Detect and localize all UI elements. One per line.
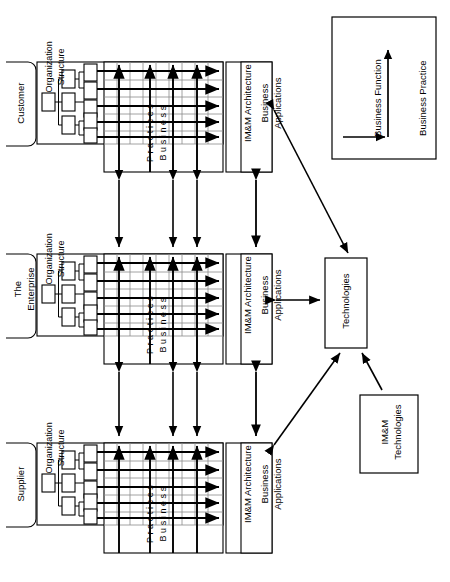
matrix-label-enterprise-line1: Business <box>159 283 169 365</box>
technologies-label: Technologies <box>341 258 351 344</box>
org-label-customer-line2: Structure <box>57 26 67 108</box>
immtech-label-line2: Technologies <box>393 395 403 469</box>
org-node-mid <box>62 116 75 134</box>
org-node-mid <box>62 308 75 326</box>
org-label-enterprise-line1: Organization <box>45 218 55 300</box>
matrix-label-enterprise-line2: Practices <box>146 283 156 365</box>
matrix-label-customer-line2: Practices <box>146 91 156 173</box>
immarch-label-enterprise: IM&M Architecture <box>243 242 253 348</box>
org-node-leaf <box>84 509 97 524</box>
org-label-supplier-line1: Organization <box>45 407 55 489</box>
org-node-leaf <box>84 128 97 143</box>
org-node-leaf <box>84 320 97 335</box>
apps-label-supplier-line2: Applications <box>273 431 283 537</box>
entity-label-customer: Customer <box>16 62 26 144</box>
entity-label-enterprise-line1: The <box>13 248 23 330</box>
connector-enterprise-supplier <box>119 372 197 436</box>
apps-label-enterprise-line1: Business <box>260 242 270 348</box>
apps-label-customer-line1: Business <box>260 50 270 156</box>
apps-label-supplier-line1: Business <box>260 431 270 537</box>
org-node-mid <box>62 497 75 515</box>
org-node-leaf <box>84 82 97 99</box>
connector-supplier-apps-technologies <box>274 353 340 445</box>
matrix-label-customer-line1: Business <box>159 91 169 173</box>
org-node-leaf <box>84 445 97 462</box>
org-label-customer-line1: Organization <box>45 26 55 108</box>
org-label-supplier-line2: Structure <box>57 407 67 489</box>
org-node-leaf <box>84 463 97 480</box>
org-node-leaf <box>84 64 97 81</box>
legend-function-label: Business Function <box>373 45 383 151</box>
diagram-canvas: Business Function Business Practice Tech… <box>0 0 450 582</box>
matrix-label-supplier-line2: Practices <box>146 472 156 554</box>
legend-practice-label: Business Practice <box>418 45 428 151</box>
apps-label-enterprise-line2: Applications <box>273 242 283 348</box>
entity-label-supplier: Supplier <box>16 443 26 525</box>
immarch-label-customer: IM&M Architecture <box>243 50 253 156</box>
org-node-leaf <box>84 113 97 130</box>
entity-label-enterprise-line2: Enterprise <box>26 248 36 330</box>
connector-immtech-technologies <box>362 353 382 390</box>
org-node-leaf <box>84 256 97 273</box>
immtech-label-line1: IM&M <box>380 395 390 469</box>
connector-customer-enterprise <box>119 180 197 247</box>
immarch-label-supplier: IM&M Architecture <box>243 431 253 537</box>
org-node-leaf <box>84 274 97 291</box>
matrix-label-supplier-line1: Business <box>159 472 169 554</box>
apps-label-customer-line2: Applications <box>273 50 283 156</box>
org-label-enterprise-line2: Structure <box>57 218 67 300</box>
